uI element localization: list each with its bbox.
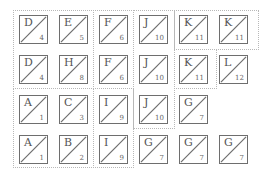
tile-letter: H <box>64 57 74 69</box>
tile-number: 7 <box>240 154 244 162</box>
tile[interactable]: I9 <box>99 135 128 164</box>
tile-number: 10 <box>155 114 164 122</box>
tile-letter: G <box>144 137 153 149</box>
tile[interactable]: I9 <box>99 95 128 124</box>
tile-number: 6 <box>120 34 124 42</box>
tile-number: 3 <box>80 114 84 122</box>
tile[interactable]: K11 <box>179 55 208 84</box>
tile-letter: I <box>104 97 108 109</box>
tile-letter: J <box>144 17 148 29</box>
tile[interactable]: F6 <box>99 55 128 84</box>
tile-number: 11 <box>195 74 204 82</box>
tile-letter: B <box>64 137 72 149</box>
tile-letter: L <box>224 57 231 69</box>
tile-letter: F <box>104 17 112 29</box>
tile-number: 9 <box>120 154 124 162</box>
tile-letter: F <box>104 57 112 69</box>
tile[interactable]: D4 <box>19 55 48 84</box>
tile[interactable]: J10 <box>139 95 168 124</box>
tile[interactable]: E5 <box>59 15 88 44</box>
tile-letter: G <box>224 137 233 149</box>
tile[interactable]: G7 <box>139 135 168 164</box>
tile-number: 1 <box>40 154 44 162</box>
tile-letter: C <box>64 97 72 109</box>
tile[interactable]: A1 <box>19 95 48 124</box>
tile[interactable]: L12 <box>219 55 248 84</box>
tile[interactable]: G7 <box>219 135 248 164</box>
tile-letter: G <box>184 97 193 109</box>
tile-letter: K <box>184 57 192 69</box>
tile[interactable]: G7 <box>179 135 208 164</box>
tile-number: 4 <box>40 34 44 42</box>
tile-number: 10 <box>155 74 164 82</box>
tile-number: 2 <box>80 154 84 162</box>
tile-letter: I <box>104 137 108 149</box>
tile-number: 1 <box>40 114 44 122</box>
tile[interactable]: C3 <box>59 95 88 124</box>
tile-number: 11 <box>235 34 244 42</box>
tile[interactable]: A1 <box>19 135 48 164</box>
tile-letter: J <box>144 57 148 69</box>
tile-number: 11 <box>195 34 204 42</box>
tile-letter: K <box>184 17 192 29</box>
tile[interactable]: G7 <box>179 95 208 124</box>
tile-number: 9 <box>120 114 124 122</box>
tile[interactable]: B2 <box>59 135 88 164</box>
tile[interactable]: J10 <box>139 15 168 44</box>
tile[interactable]: J10 <box>139 55 168 84</box>
tile-number: 5 <box>80 34 84 42</box>
tile-letter: A <box>24 97 32 109</box>
tile-number: 8 <box>80 74 84 82</box>
tile-number: 7 <box>160 154 164 162</box>
tile-letter: G <box>184 137 193 149</box>
tile-letter: E <box>64 17 72 29</box>
tile[interactable]: K11 <box>179 15 208 44</box>
tile[interactable]: K11 <box>219 15 248 44</box>
tile-number: 7 <box>200 114 204 122</box>
tile-letter: D <box>24 57 33 69</box>
tile-number: 12 <box>235 74 244 82</box>
tile-number: 4 <box>40 74 44 82</box>
tile-number: 6 <box>120 74 124 82</box>
tile-letter: A <box>24 137 32 149</box>
tile[interactable]: H8 <box>59 55 88 84</box>
tile-letter: K <box>224 17 232 29</box>
tile[interactable]: F6 <box>99 15 128 44</box>
tile[interactable]: D4 <box>19 15 48 44</box>
tile-number: 7 <box>200 154 204 162</box>
tile-letter: J <box>144 97 148 109</box>
tile-number: 10 <box>155 34 164 42</box>
tile-letter: D <box>24 17 33 29</box>
